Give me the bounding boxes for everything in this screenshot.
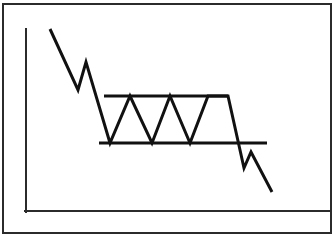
chart-figure	[0, 0, 335, 237]
chart-canvas	[0, 0, 335, 237]
figure-background	[0, 0, 335, 237]
